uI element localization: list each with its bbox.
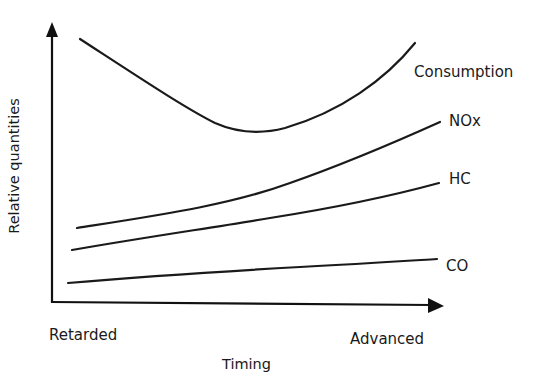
label-consumption: Consumption xyxy=(414,65,513,80)
x-tick-label-advanced: Advanced xyxy=(350,332,424,347)
x-axis-label: Timing xyxy=(222,357,271,372)
label-nox: NOx xyxy=(449,114,481,129)
x-axis xyxy=(51,302,432,305)
curve-co xyxy=(68,259,437,283)
label-co: CO xyxy=(446,259,468,274)
y-axis-label: Relative quantities xyxy=(6,98,22,233)
y-axis-arrow-icon xyxy=(46,22,58,37)
curve-nox xyxy=(77,122,440,228)
curve-consumption xyxy=(80,39,415,132)
label-hc: HC xyxy=(449,172,471,187)
x-axis-arrow-icon xyxy=(428,298,444,313)
x-tick-label-retarded: Retarded xyxy=(49,328,117,343)
